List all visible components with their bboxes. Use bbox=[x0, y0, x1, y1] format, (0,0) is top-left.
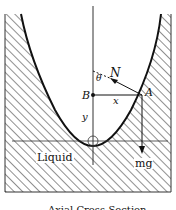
point-b bbox=[91, 93, 95, 97]
label-y: y bbox=[82, 112, 88, 122]
label-liquid: Liquid bbox=[36, 152, 74, 163]
label-n: N bbox=[110, 67, 121, 79]
caption: Axial Cross-Section bbox=[48, 205, 147, 210]
label-mg: mg bbox=[134, 158, 153, 169]
diagram-canvas bbox=[0, 0, 176, 210]
label-x: x bbox=[113, 96, 119, 106]
label-theta: θ bbox=[96, 74, 101, 83]
label-a: A bbox=[145, 87, 153, 98]
label-b: B bbox=[82, 90, 90, 101]
normal-force-vector bbox=[113, 80, 142, 95]
